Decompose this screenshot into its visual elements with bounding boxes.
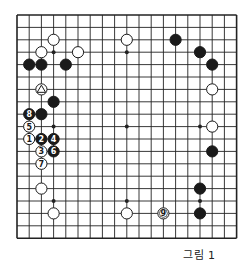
star-point bbox=[198, 199, 202, 203]
black-stone bbox=[60, 59, 71, 70]
white-stone bbox=[121, 34, 132, 45]
white-stone bbox=[48, 208, 59, 219]
white-stone bbox=[207, 121, 218, 132]
move-number: 3 bbox=[39, 147, 45, 156]
black-stone bbox=[207, 59, 218, 70]
white-stone bbox=[36, 183, 47, 194]
black-stone bbox=[24, 59, 35, 70]
move-number: 8 bbox=[26, 110, 32, 119]
white-stone bbox=[72, 47, 83, 58]
black-stone bbox=[194, 183, 205, 194]
move-number: 1 bbox=[26, 135, 32, 144]
go-board: 851243679 bbox=[0, 0, 250, 245]
black-stone bbox=[48, 96, 59, 107]
black-stone bbox=[207, 146, 218, 157]
white-stone bbox=[207, 84, 218, 95]
black-stone bbox=[194, 208, 205, 219]
star-point bbox=[125, 199, 129, 203]
white-stone bbox=[36, 47, 47, 58]
star-point bbox=[198, 125, 202, 129]
star-point bbox=[125, 50, 129, 54]
move-number: 4 bbox=[51, 135, 57, 144]
move-number: 7 bbox=[39, 160, 45, 169]
star-point bbox=[125, 125, 129, 129]
black-stone bbox=[170, 34, 181, 45]
black-stone bbox=[194, 47, 205, 58]
black-stone bbox=[36, 109, 47, 120]
black-stone bbox=[36, 59, 47, 70]
move-number: 2 bbox=[39, 135, 45, 144]
white-stone bbox=[48, 34, 59, 45]
figure-caption: 그림 1 bbox=[183, 246, 216, 262]
star-point bbox=[52, 125, 56, 129]
move-number: 6 bbox=[51, 147, 57, 156]
star-point bbox=[52, 50, 56, 54]
star-point bbox=[52, 199, 56, 203]
move-number: 5 bbox=[26, 123, 32, 132]
white-stone bbox=[121, 208, 132, 219]
